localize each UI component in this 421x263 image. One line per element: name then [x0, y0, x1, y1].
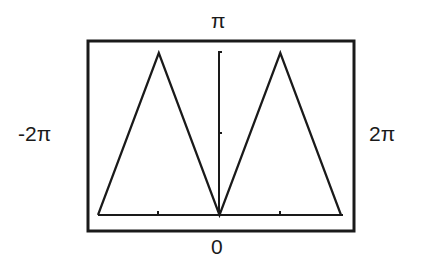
plot-canvas	[0, 0, 421, 263]
x-min-label: -2π	[18, 123, 51, 144]
y-min-label: 0	[211, 236, 223, 257]
x-max-label: 2π	[369, 123, 395, 144]
y-max-label: π	[211, 10, 226, 31]
